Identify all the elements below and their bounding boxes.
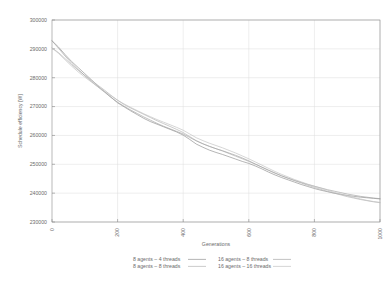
series-line-0 <box>52 41 380 199</box>
x-tick-label: 0 <box>49 228 55 231</box>
y-tick-label: 290000 <box>30 46 47 52</box>
y-tick-label: 240000 <box>30 190 47 196</box>
line-chart: 2300002400002500002600002700002800002900… <box>0 0 392 287</box>
y-tick-label: 260000 <box>30 132 47 138</box>
series-line-2 <box>52 41 380 199</box>
series-line-3 <box>52 48 380 202</box>
legend-label-3: 16 agents – 16 threads <box>218 263 271 269</box>
x-tick-label: 200 <box>114 228 120 237</box>
series-line-1 <box>52 48 380 203</box>
legend-label-2: 16 agents – 8 threads <box>218 256 269 262</box>
x-tick-label: 1000 <box>377 228 383 240</box>
plot-border <box>52 20 380 222</box>
x-tick-label: 400 <box>180 228 186 237</box>
legend-label-1: 8 agents – 8 threads <box>133 263 181 269</box>
x-axis-title: Generations <box>202 241 231 247</box>
y-tick-label: 270000 <box>30 103 47 109</box>
x-tick-label: 800 <box>311 228 317 237</box>
y-tick-label: 250000 <box>30 161 47 167</box>
y-tick-label: 300000 <box>30 17 47 23</box>
y-tick-label: 230000 <box>30 219 47 225</box>
x-tick-label: 600 <box>246 228 252 237</box>
legend-label-0: 8 agents – 4 threads <box>133 256 181 262</box>
y-axis-title: Schedule efficiency [W] <box>17 94 23 148</box>
chart-container: 2300002400002500002600002700002800002900… <box>0 0 392 287</box>
y-tick-label: 280000 <box>30 75 47 81</box>
